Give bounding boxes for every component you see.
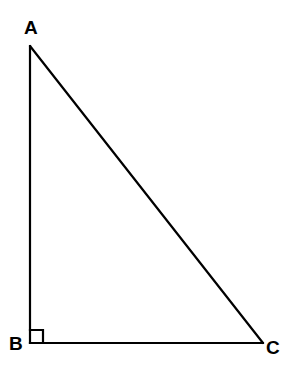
right-angle-marker-icon xyxy=(30,330,43,343)
vertex-label-a: A xyxy=(24,18,38,37)
vertex-label-b: B xyxy=(9,334,23,353)
geometry-figure: A B C xyxy=(0,0,294,372)
triangle-drawing xyxy=(0,0,294,372)
edge-ca-hypotenuse-line xyxy=(30,46,263,343)
vertex-label-c: C xyxy=(266,338,280,357)
